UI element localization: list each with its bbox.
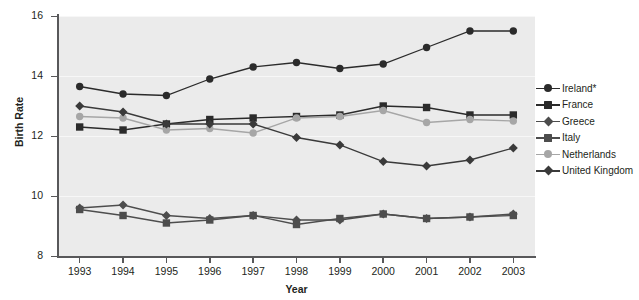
plot-area [58,16,535,256]
y-tick [51,136,58,138]
circle-marker-icon [536,148,560,160]
x-tick-label: 1999 [317,266,363,277]
data-point [510,27,517,34]
data-point [336,113,343,120]
y-tick-label: 10 [3,190,43,200]
data-point [423,215,430,222]
data-point [293,59,300,66]
x-tick [382,257,384,263]
data-point [293,114,300,121]
legend-label: Netherlands [560,149,616,160]
data-point [163,92,170,99]
data-point [380,107,387,114]
data-point [76,113,83,120]
data-point [422,162,431,171]
x-tick-label: 1993 [57,266,103,277]
data-point [119,108,128,117]
y-tick [51,76,58,78]
data-point [379,157,388,166]
data-point [206,216,213,223]
legend: Ireland*FranceGreeceItalyNetherlandsUnit… [536,80,639,179]
diamond-marker-icon [536,115,560,127]
data-point [509,144,518,153]
x-tick [339,257,341,263]
data-point [380,60,387,67]
legend-label: United Kingdom [560,165,633,176]
x-tick-label: 1997 [230,266,276,277]
x-tick-label: 2001 [404,266,450,277]
data-point [249,212,256,219]
chart-root: 810121416 199319941995199619971998199920… [0,0,639,300]
y-tick-label: 8 [3,250,43,260]
data-point [466,213,473,220]
data-point [510,212,517,219]
data-point [423,119,430,126]
x-axis-title: Year [57,283,536,295]
x-tick [513,257,515,263]
data-point [466,116,473,123]
data-point [75,102,84,111]
x-tick-label: 1998 [274,266,320,277]
x-tick-label: 2002 [447,266,493,277]
legend-item-italy[interactable]: Italy [536,130,639,147]
x-tick-label: 1994 [100,266,146,277]
data-point [76,206,83,213]
data-point [119,90,126,97]
x-tick [296,257,298,263]
circle-marker-icon [536,82,560,94]
series-ireland [76,27,517,99]
data-point [423,104,430,111]
legend-label: Greece [560,116,595,127]
data-point [249,63,256,70]
x-tick-label: 1995 [143,266,189,277]
data-point [119,126,126,133]
x-tick [166,257,168,263]
x-tick [209,257,211,263]
x-tick [469,257,471,263]
x-tick-label: 2003 [490,266,536,277]
y-axis-title: Birth Rate [13,77,25,167]
y-tick-label: 16 [3,10,43,20]
legend-item-united-kingdom[interactable]: United Kingdom [536,163,639,180]
square-marker-icon [536,99,560,111]
legend-item-ireland[interactable]: Ireland* [536,80,639,97]
diamond-marker-icon [536,165,560,177]
data-point [466,27,473,34]
data-point [249,129,256,136]
data-point [76,83,83,90]
data-point [336,215,343,222]
series-layer [58,16,535,256]
data-point [163,219,170,226]
x-tick [252,257,254,263]
data-point [162,211,171,220]
legend-item-greece[interactable]: Greece [536,113,639,130]
x-tick-label: 2000 [360,266,406,277]
data-point [335,141,344,150]
y-tick [51,16,58,18]
data-point [293,221,300,228]
data-point [380,210,387,217]
data-point [206,75,213,82]
legend-label: France [560,99,593,110]
legend-label: Ireland* [560,83,596,94]
data-point [423,44,430,51]
data-point [292,133,301,142]
data-point [510,117,517,124]
data-point [76,123,83,130]
data-point [119,212,126,219]
data-point [336,65,343,72]
data-point [465,156,474,165]
legend-item-france[interactable]: France [536,97,639,114]
square-marker-icon [536,132,560,144]
y-tick [51,196,58,198]
x-tick [426,257,428,263]
legend-item-netherlands[interactable]: Netherlands [536,146,639,163]
data-point [119,201,128,210]
y-tick [51,256,58,258]
legend-label: Italy [560,132,580,143]
x-tick [122,257,124,263]
x-tick-label: 1996 [187,266,233,277]
x-tick [79,257,81,263]
